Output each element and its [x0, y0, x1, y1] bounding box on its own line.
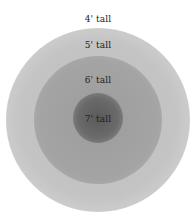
- label-4ft: 4' tall: [0, 14, 196, 24]
- label-5ft: 5' tall: [0, 40, 196, 50]
- label-7ft: 7' tall: [0, 114, 196, 124]
- label-6ft: 6' tall: [0, 75, 196, 85]
